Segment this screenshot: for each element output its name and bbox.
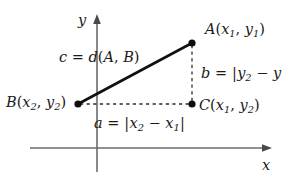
segment-label-hypotenuse: c = d(A, B) [59,50,140,65]
point-marker-a [188,39,195,46]
segment-label-vertical: b = |y2 − y [201,66,281,81]
y-axis-arrowhead [93,14,101,24]
distance-formula-figure: A(x1, y1) B(x2, y2) C(x1, y2) c = d(A, B… [0,0,283,180]
point-label-a: A(x1, y1) [205,22,265,37]
point-label-b: B(x2, y2) [6,95,66,110]
point-marker-b [74,100,81,107]
y-axis-label: y [78,13,86,28]
point-label-c: C(x1, y2) [199,98,260,113]
x-axis-label: x [262,158,270,173]
segment-label-horizontal: a = |x2 − x1| [94,116,185,131]
x-axis-arrowhead [262,144,272,152]
point-marker-c [188,100,195,107]
